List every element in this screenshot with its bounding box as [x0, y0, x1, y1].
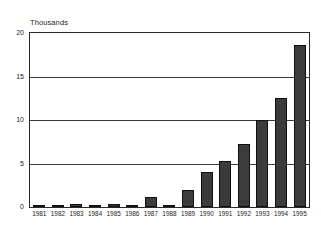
x-axis-tick: 1994 — [272, 210, 291, 217]
gridline — [30, 120, 309, 121]
y-axis-tick-labels: 20151050 — [0, 32, 27, 208]
x-axis-tick: 1982 — [49, 210, 68, 217]
x-axis-tick: 1992 — [235, 210, 254, 217]
y-axis-tick: 20 — [16, 29, 24, 36]
bar-chart: Thousands 20151050 198119821983198419851… — [0, 0, 321, 238]
x-axis-tick: 1988 — [160, 210, 179, 217]
x-axis-tick: 1989 — [179, 210, 198, 217]
x-axis-tick-labels: 1981198219831984198519861987198819891990… — [30, 210, 309, 217]
x-axis-tick: 1984 — [86, 210, 105, 217]
x-axis-tick: 1990 — [197, 210, 216, 217]
y-axis-tick: 15 — [16, 72, 24, 79]
gridlines — [30, 33, 309, 207]
x-axis-tick: 1995 — [290, 210, 309, 217]
gridline — [30, 77, 309, 78]
y-axis-unit-caption: Thousands — [30, 18, 68, 27]
x-axis-tick: 1991 — [216, 210, 235, 217]
x-axis-tick: 1981 — [30, 210, 49, 217]
x-axis-tick: 1986 — [123, 210, 142, 217]
x-axis-tick: 1987 — [142, 210, 161, 217]
plot-area — [29, 32, 310, 208]
y-axis-tick: 5 — [20, 159, 24, 166]
x-axis-tick: 1983 — [67, 210, 86, 217]
gridline — [30, 164, 309, 165]
x-axis-tick: 1993 — [253, 210, 272, 217]
y-axis-tick: 10 — [16, 116, 24, 123]
x-axis-tick: 1985 — [104, 210, 123, 217]
y-axis-tick: 0 — [20, 203, 24, 210]
